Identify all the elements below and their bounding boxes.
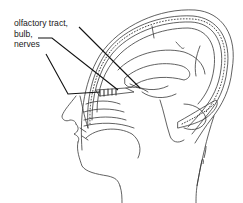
thalamus [142, 92, 176, 98]
upper-lip [74, 124, 79, 142]
olfactory-bulb [96, 88, 134, 96]
fornix [130, 84, 168, 90]
label-line-3: nerves [14, 39, 68, 50]
neck-front [120, 186, 122, 203]
cingulate-gyrus [118, 50, 205, 74]
palate [84, 123, 134, 128]
chin [77, 142, 120, 186]
spine-dots [182, 104, 214, 124]
turbinate-1 [86, 101, 120, 104]
scalp-outline [81, 10, 233, 150]
label-line-2: bulb, [14, 29, 68, 40]
corpus-callosum [125, 64, 190, 87]
olfactory-nerves [100, 89, 116, 96]
sulcus-3 [176, 42, 184, 49]
leader-nerves [46, 54, 100, 94]
label-line-1: olfactory tract, [14, 18, 68, 29]
olfactory-label: olfactory tract, bulb, nerves [14, 18, 68, 50]
anatomy-diagram: olfactory tract, bulb, nerves [0, 0, 243, 203]
skull-outer [88, 16, 228, 134]
leader-tract [79, 27, 140, 88]
tongue [86, 129, 140, 158]
brain-outline [97, 28, 215, 112]
nose [62, 96, 76, 124]
neck-back [196, 116, 214, 203]
signature [197, 146, 206, 186]
